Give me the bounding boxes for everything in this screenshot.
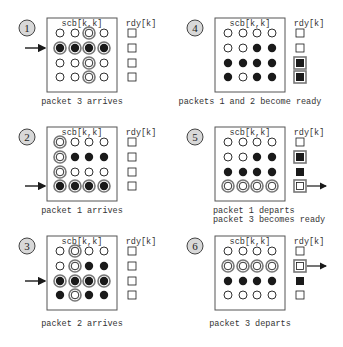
scb-cell-0-1-r [69,245,81,257]
scb-cell-0-3-o [268,29,276,37]
rdy-box-1-o [128,262,136,270]
scb-cell-2-3-o [100,59,108,67]
scb-cell-3-1-o [239,73,247,81]
step-number: 3 [24,240,30,252]
panel-5: 5scb[k,k]rdy[k]packet 1 departspacket 3 … [187,127,326,225]
rdy-box-1-o [128,153,136,161]
rdy-box-3-r [294,180,306,192]
step-number: 4 [192,22,198,34]
scb-cell-0-1-o [71,29,79,37]
scb-cell-0-2-o [85,247,93,255]
step-badge: 4 [187,20,203,36]
ready-label: rdy[k] [126,237,157,247]
matrix-label: scb[k,k] [230,128,271,138]
panel-caption: packets 1 and 2 become ready [179,97,322,107]
panel-2: 2scb[k,k]rdy[k]packet 1 arrives [19,127,156,216]
scb-cell-0-3-o [100,138,108,146]
scb-cell-3-3-o [268,291,276,299]
scb-cell-1-2-F [83,42,95,54]
ready-label: rdy[k] [294,19,325,29]
scb-cell-3-2-f [85,291,93,299]
scb-cell-0-2-o [253,138,261,146]
rdy-box-3-o [128,73,136,81]
step-number: 2 [24,131,30,143]
scb-cell-2-2-f [253,168,261,176]
rdy-box-0-o [296,138,304,146]
scb-cell-0-0-o [56,29,64,37]
rdy-box-3-o [128,291,136,299]
scb-cell-0-2-r [83,27,95,39]
scb-cell-1-0-F [54,42,66,54]
scb-cell-3-2-o [253,291,261,299]
scb-cell-1-1-r [237,260,249,272]
scb-cell-0-0-r [54,136,66,148]
scb-cell-1-1-f [71,153,79,161]
rdy-box-2-F [294,57,306,69]
scb-cell-2-2-F [83,275,95,287]
matrix-frame [215,236,285,310]
rdy-box-1-o [128,44,136,52]
scb-cell-3-0-f [224,73,232,81]
scb-cell-1-2-r [251,260,263,272]
scb-cell-1-0-r [222,260,234,272]
scb-cell-2-2-f [253,59,261,67]
scb-cell-2-0-f [224,59,232,67]
scb-cell-0-2-o [253,29,261,37]
step-badge: 6 [187,238,203,254]
scb-cell-2-1-F [69,275,81,287]
panel-1: 1scb[k,k]rdy[k]packet 3 arrives [19,18,156,107]
scb-cell-1-3-f [100,153,108,161]
matrix-label: scb[k,k] [62,237,103,247]
scb-cell-3-2-f [253,73,261,81]
scb-cell-3-0-f [56,291,64,299]
scb-cell-3-2-r [251,180,263,192]
scb-cell-0-2-o [85,138,93,146]
rdy-box-2-f [296,168,304,176]
scb-cell-0-3-o [268,247,276,255]
scb-cell-3-0-F [54,180,66,192]
scb-cell-2-0-F [54,275,66,287]
scb-cell-1-0-o [56,262,64,270]
rdy-box-0-o [128,138,136,146]
scb-cell-2-1-f [239,168,247,176]
matrix-frame [47,236,117,310]
scb-cell-0-1-o [239,138,247,146]
scb-cell-2-3-o [100,168,108,176]
panel-caption: packet 1 arrives [41,206,123,216]
scb-cell-2-0-o [56,59,64,67]
matrix-frame [215,18,285,92]
rdy-box-1-r [294,260,306,272]
ready-label: rdy[k] [294,237,325,247]
rdy-box-3-F [294,71,306,83]
scb-cell-1-1-r [69,260,81,272]
panel-6: 6scb[k,k]rdy[k]packet 3 departs [187,236,326,329]
scb-cell-0-3-o [100,29,108,37]
matrix-frame [47,18,117,92]
scb-cell-1-3-f [268,153,276,161]
ready-label: rdy[k] [126,128,157,138]
scb-cell-3-2-r [83,71,95,83]
rdy-box-1-o [296,44,304,52]
scb-cell-3-0-r [222,180,234,192]
scb-cell-3-3-f [268,73,276,81]
scb-cell-2-3-F [98,275,110,287]
step-number: 5 [192,131,198,143]
rdy-box-2-o [128,168,136,176]
scb-cell-0-1-o [239,247,247,255]
matrix-label: scb[k,k] [230,19,271,29]
scb-cell-1-0-r [54,151,66,163]
scb-cell-2-2-r [83,57,95,69]
matrix-label: scb[k,k] [62,128,103,138]
scb-cell-1-0-o [224,44,232,52]
scb-cell-2-0-r [54,166,66,178]
scb-cell-1-3-f [100,262,108,270]
scb-cell-3-1-r [69,289,81,301]
scb-cell-3-3-o [100,73,108,81]
ready-label: rdy[k] [126,19,157,29]
rdy-box-2-o [128,59,136,67]
scb-cell-1-2-f [253,44,261,52]
panel-3: 3scb[k,k]rdy[k]packet 2 arrives [19,236,156,329]
scb-cell-1-0-o [224,153,232,161]
scb-cell-2-1-o [71,59,79,67]
scb-cell-0-2-o [253,247,261,255]
